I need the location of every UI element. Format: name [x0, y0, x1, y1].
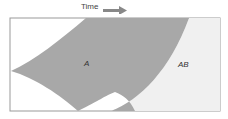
region-ab-label: AB: [177, 60, 189, 69]
region-a-label: A: [83, 59, 89, 68]
lineage-diagram: A AB: [0, 0, 228, 119]
